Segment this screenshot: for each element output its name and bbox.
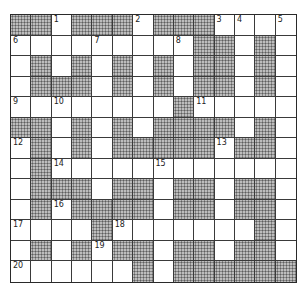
answer-cell[interactable]: [11, 241, 31, 262]
answer-cell[interactable]: 2: [133, 15, 153, 36]
answer-cell[interactable]: [276, 220, 296, 241]
answer-cell[interactable]: [72, 36, 92, 57]
answer-cell[interactable]: 8: [174, 36, 194, 57]
answer-cell[interactable]: 6: [11, 36, 31, 57]
answer-cell[interactable]: [52, 36, 72, 57]
answer-cell[interactable]: 19: [92, 241, 112, 262]
answer-cell[interactable]: [92, 179, 112, 200]
answer-cell[interactable]: [72, 261, 92, 282]
answer-cell[interactable]: 14: [52, 159, 72, 180]
answer-cell[interactable]: [276, 118, 296, 139]
answer-cell[interactable]: 9: [11, 97, 31, 118]
answer-cell[interactable]: [31, 220, 51, 241]
answer-cell[interactable]: [154, 97, 174, 118]
answer-cell[interactable]: [235, 36, 255, 57]
answer-cell[interactable]: [31, 97, 51, 118]
answer-cell[interactable]: [52, 118, 72, 139]
answer-cell[interactable]: [52, 220, 72, 241]
answer-cell[interactable]: 3: [215, 15, 235, 36]
answer-cell[interactable]: 15: [154, 159, 174, 180]
answer-cell[interactable]: [276, 138, 296, 159]
answer-cell[interactable]: [133, 220, 153, 241]
answer-cell[interactable]: 4: [235, 15, 255, 36]
answer-cell[interactable]: [276, 97, 296, 118]
answer-cell[interactable]: [52, 138, 72, 159]
answer-cell[interactable]: [235, 56, 255, 77]
answer-cell[interactable]: [174, 159, 194, 180]
answer-cell[interactable]: [235, 159, 255, 180]
answer-cell[interactable]: [72, 220, 92, 241]
answer-cell[interactable]: [276, 179, 296, 200]
answer-cell[interactable]: 17: [11, 220, 31, 241]
answer-cell[interactable]: [11, 159, 31, 180]
answer-cell[interactable]: [255, 97, 275, 118]
answer-cell[interactable]: [92, 261, 112, 282]
answer-cell[interactable]: 18: [113, 220, 133, 241]
answer-cell[interactable]: [92, 118, 112, 139]
answer-cell[interactable]: 16: [52, 200, 72, 221]
answer-cell[interactable]: [154, 220, 174, 241]
answer-cell[interactable]: [113, 261, 133, 282]
answer-cell[interactable]: [92, 77, 112, 98]
answer-cell[interactable]: [154, 179, 174, 200]
answer-cell[interactable]: 1: [52, 15, 72, 36]
answer-cell[interactable]: [31, 261, 51, 282]
answer-cell[interactable]: [276, 200, 296, 221]
answer-cell[interactable]: [11, 77, 31, 98]
answer-cell[interactable]: [276, 241, 296, 262]
answer-cell[interactable]: [235, 97, 255, 118]
answer-cell[interactable]: [31, 36, 51, 57]
answer-cell[interactable]: [215, 220, 235, 241]
answer-cell[interactable]: [133, 56, 153, 77]
answer-cell[interactable]: [113, 97, 133, 118]
answer-cell[interactable]: [72, 97, 92, 118]
answer-cell[interactable]: [194, 159, 214, 180]
answer-cell[interactable]: [235, 220, 255, 241]
answer-cell[interactable]: 13: [215, 138, 235, 159]
answer-cell[interactable]: [52, 56, 72, 77]
answer-cell[interactable]: [276, 77, 296, 98]
answer-cell[interactable]: [133, 118, 153, 139]
answer-cell[interactable]: [133, 159, 153, 180]
answer-cell[interactable]: [92, 159, 112, 180]
answer-cell[interactable]: [11, 56, 31, 77]
answer-cell[interactable]: [133, 97, 153, 118]
answer-cell[interactable]: [72, 159, 92, 180]
answer-cell[interactable]: [215, 159, 235, 180]
answer-cell[interactable]: [92, 97, 112, 118]
answer-cell[interactable]: [52, 241, 72, 262]
answer-cell[interactable]: [194, 220, 214, 241]
answer-cell[interactable]: 10: [52, 97, 72, 118]
answer-cell[interactable]: [133, 77, 153, 98]
answer-cell[interactable]: [133, 36, 153, 57]
answer-cell[interactable]: [154, 200, 174, 221]
answer-cell[interactable]: [215, 200, 235, 221]
answer-cell[interactable]: [255, 15, 275, 36]
answer-cell[interactable]: [52, 261, 72, 282]
answer-cell[interactable]: [113, 36, 133, 57]
answer-cell[interactable]: [235, 118, 255, 139]
answer-cell[interactable]: [215, 179, 235, 200]
answer-cell[interactable]: [215, 241, 235, 262]
answer-cell[interactable]: [11, 200, 31, 221]
answer-cell[interactable]: 5: [276, 15, 296, 36]
answer-cell[interactable]: 12: [11, 138, 31, 159]
answer-cell[interactable]: [174, 56, 194, 77]
answer-cell[interactable]: 11: [194, 97, 214, 118]
answer-cell[interactable]: 7: [92, 36, 112, 57]
answer-cell[interactable]: 20: [11, 261, 31, 282]
answer-cell[interactable]: [92, 56, 112, 77]
answer-cell[interactable]: [154, 36, 174, 57]
answer-cell[interactable]: [255, 159, 275, 180]
answer-cell[interactable]: [235, 77, 255, 98]
answer-cell[interactable]: [174, 220, 194, 241]
answer-cell[interactable]: [276, 159, 296, 180]
answer-cell[interactable]: [174, 77, 194, 98]
answer-cell[interactable]: [276, 36, 296, 57]
answer-cell[interactable]: [276, 56, 296, 77]
answer-cell[interactable]: [92, 138, 112, 159]
answer-cell[interactable]: [11, 179, 31, 200]
answer-cell[interactable]: [154, 261, 174, 282]
answer-cell[interactable]: [113, 159, 133, 180]
answer-cell[interactable]: [215, 97, 235, 118]
